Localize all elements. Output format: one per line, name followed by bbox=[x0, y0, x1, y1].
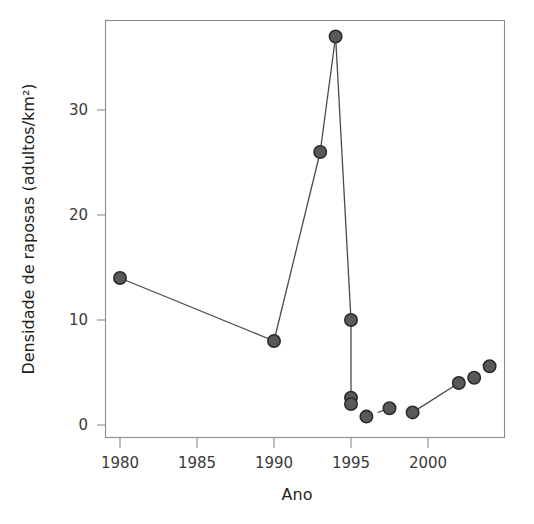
data-point-marker bbox=[483, 360, 495, 372]
y-tick-label-20: 20 bbox=[69, 206, 88, 224]
x-axis-ticks bbox=[120, 438, 428, 448]
x-tick-label-1985: 1985 bbox=[178, 454, 216, 472]
series-segment bbox=[320, 37, 335, 153]
data-point-marker bbox=[314, 146, 326, 158]
x-tick-label-2000: 2000 bbox=[409, 454, 447, 472]
x-tick-label-1990: 1990 bbox=[255, 454, 293, 472]
plot-frame bbox=[106, 21, 505, 438]
data-point-marker bbox=[345, 398, 357, 410]
y-tick-label-10: 10 bbox=[69, 311, 88, 329]
series-segment bbox=[336, 37, 351, 321]
y-axis-ticks bbox=[97, 110, 105, 425]
data-point-marker bbox=[268, 335, 280, 347]
data-point-marker bbox=[383, 402, 395, 414]
x-tick-label-1980: 1980 bbox=[101, 454, 139, 472]
data-point-marker bbox=[114, 272, 126, 284]
data-point-marker bbox=[345, 314, 357, 326]
data-point-marker bbox=[453, 377, 465, 389]
y-axis-title: Densidade de raposas (adultos/km²) bbox=[19, 83, 38, 374]
line-chart: 30 20 10 0 1980 1985 1990 1995 2000 Ano … bbox=[0, 0, 534, 524]
y-tick-label-0: 0 bbox=[78, 416, 88, 434]
data-point-marker bbox=[406, 406, 418, 418]
series-segment bbox=[274, 152, 320, 341]
y-tick-label-30: 30 bbox=[69, 101, 88, 119]
data-point-marker bbox=[329, 30, 341, 42]
x-tick-label-1995: 1995 bbox=[332, 454, 370, 472]
x-axis-title: Ano bbox=[282, 485, 313, 504]
series-segment bbox=[120, 278, 274, 341]
data-point-marker bbox=[360, 410, 372, 422]
series-segment bbox=[413, 383, 459, 412]
data-series-layer bbox=[114, 30, 496, 423]
data-point-marker bbox=[468, 372, 480, 384]
figure-container: 30 20 10 0 1980 1985 1990 1995 2000 Ano … bbox=[0, 0, 534, 524]
